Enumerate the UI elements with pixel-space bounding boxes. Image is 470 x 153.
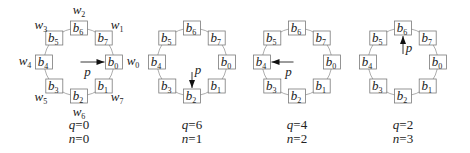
ring-panel-1: b0b1b2b3b4b5b6b7pq=6n=1 bbox=[149, 20, 236, 146]
pointer-label: p bbox=[284, 64, 292, 79]
n-value: n=2 bbox=[287, 131, 307, 146]
outer-label-w5: w5 bbox=[34, 89, 47, 106]
outer-label-w1: w1 bbox=[111, 17, 124, 34]
ring-buffer-figure: b0b1b2b3b4b5b6b7w0w1w2w3w4w5w6w7pq=0n=0b… bbox=[0, 0, 470, 153]
ring-panel-3: b0b1b2b3b4b5b6b7pq=2n=3 bbox=[360, 20, 447, 146]
pointer-arrowhead-icon bbox=[189, 80, 195, 88]
pointer-label: p bbox=[194, 62, 202, 77]
q-value: q=0 bbox=[69, 117, 89, 132]
pointer-label: p bbox=[83, 64, 91, 79]
n-value: n=3 bbox=[393, 131, 413, 146]
q-value: q=6 bbox=[182, 117, 203, 132]
n-value: n=1 bbox=[182, 131, 202, 146]
pointer-arrowhead-icon bbox=[272, 59, 280, 65]
pointer-label: p bbox=[405, 40, 413, 55]
q-value: q=2 bbox=[393, 117, 413, 132]
pointer-arrowhead-icon bbox=[97, 59, 105, 65]
ring-panel-0: b0b1b2b3b4b5b6b7w0w1w2w3w4w5w6w7pq=0n=0 bbox=[19, 2, 140, 146]
outer-label-w7: w7 bbox=[111, 89, 124, 106]
outer-label-w4: w4 bbox=[19, 53, 32, 70]
outer-label-w3: w3 bbox=[34, 17, 47, 34]
outer-label-w0: w0 bbox=[127, 53, 140, 70]
q-value: q=4 bbox=[287, 117, 308, 132]
outer-label-w2: w2 bbox=[73, 2, 86, 19]
ring-panel-2: b0b1b2b3b4b5b6b7pq=4n=2 bbox=[254, 20, 341, 146]
n-value: n=0 bbox=[69, 131, 89, 146]
